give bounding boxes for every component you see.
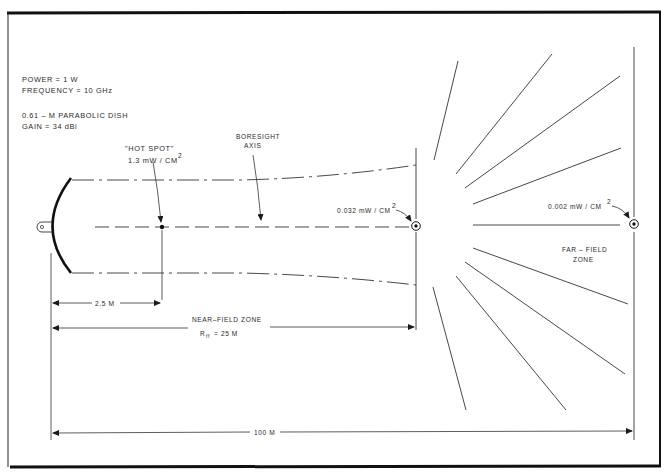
gain-label: GAIN = 34 dBi [22,122,77,131]
total-distance-label: 100 M [254,429,275,436]
rff-value: = 25 M [214,330,238,337]
svg-text:2: 2 [392,202,396,209]
dimension-2-5m: 2.5 M [53,300,160,307]
frame-border [7,12,661,467]
near-field-boundary [412,148,421,330]
spec-block: POWER = 1 W FREQUENCY = 10 GHz 0.61 – M … [22,75,128,131]
hot-spot-label: "HOT SPOT" 1.3 mW / CM 2 [125,144,182,165]
svg-text:AXIS: AXIS [244,142,261,149]
dimension-100m: 100 M [53,429,632,436]
far-field-zone-label: FAR – FIELD ZONE [562,246,607,263]
antenna-field-diagram: POWER = 1 W FREQUENCY = 10 GHz 0.61 – M … [0,0,666,474]
parabolic-dish-icon [37,178,71,273]
svg-text:2: 2 [607,198,611,205]
svg-text:0.002 mW / CM: 0.002 mW / CM [548,203,602,210]
svg-text:2: 2 [178,152,182,159]
near-field-zone-label: NEAR–FIELD ZONE [192,316,262,323]
near-field-marker-label: 0.032 mW / CM 2 [337,202,411,221]
dimension-near-field-zone: NEAR–FIELD ZONE R ff = 25 M [53,316,414,339]
hot-spot-marker [153,162,164,300]
svg-text:0.032 mW / CM: 0.032 mW / CM [337,207,391,214]
far-field-radiation-lines [433,54,628,410]
svg-text:ZONE: ZONE [573,256,594,263]
beam-envelope [72,165,416,285]
svg-text:FAR – FIELD: FAR – FIELD [562,246,607,253]
rff-symbol: R [200,330,205,337]
svg-text:"HOT SPOT": "HOT SPOT" [125,144,174,153]
frequency-label: FREQUENCY = 10 GHz [22,86,113,95]
svg-text:BORESIGHT: BORESIGHT [236,133,280,140]
power-label: POWER = 1 W [22,75,78,84]
rff-subscript: ff [206,333,210,339]
svg-text:1.3 mW / CM: 1.3 mW / CM [128,156,178,165]
far-field-marker-label: 0.002 mW / CM 2 [548,198,629,218]
far-field-boundary [630,47,639,440]
dish-label: 0.61 – M PARABOLIC DISH [22,111,128,120]
svg-text:2.5 M: 2.5 M [95,300,115,307]
boresight-label: BORESIGHT AXIS [236,133,280,220]
